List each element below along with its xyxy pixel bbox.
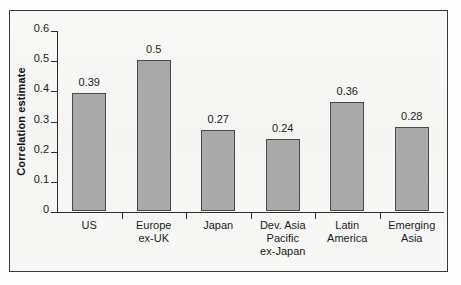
- bar: [72, 93, 106, 211]
- y-tick-label: 0.1: [34, 174, 49, 185]
- y-tick-mark: [51, 122, 57, 123]
- y-tick-mark: [51, 61, 57, 62]
- y-tick-mark: [51, 152, 57, 153]
- bar: [330, 102, 364, 211]
- x-category-label: Europe ex-UK: [122, 219, 187, 245]
- bar: [137, 60, 171, 211]
- bar: [266, 139, 300, 211]
- y-axis-title: Correlation estimate: [14, 31, 28, 212]
- y-axis-line: [57, 31, 58, 213]
- bar: [201, 130, 235, 211]
- y-tick-mark: [51, 91, 57, 92]
- x-category-label: Dev. Asia Pacific ex-Japan: [251, 219, 316, 258]
- y-tick-label: 0.6: [34, 23, 49, 34]
- y-tick-label: 0.4: [34, 83, 49, 94]
- bar-value-label: 0.5: [124, 44, 184, 55]
- bar-value-label: 0.28: [382, 111, 442, 122]
- y-tick-mark: [51, 212, 57, 213]
- bar-value-label: 0.39: [59, 77, 119, 88]
- bar-value-label: 0.24: [253, 123, 313, 134]
- y-tick-mark: [51, 31, 57, 32]
- y-tick-label: 0: [43, 204, 49, 215]
- bar: [395, 127, 429, 211]
- bar-value-label: 0.36: [317, 86, 377, 97]
- x-category-label: Latin America: [315, 219, 380, 245]
- x-category-label: Japan: [186, 219, 251, 232]
- y-tick-mark: [51, 182, 57, 183]
- y-tick-label: 0.5: [34, 53, 49, 64]
- x-category-label: US: [57, 219, 122, 232]
- plot-area: 00.10.20.30.40.50.6 0.390.50.270.240.360…: [57, 31, 444, 212]
- x-category-label: Emerging Asia: [380, 219, 445, 245]
- bar-value-label: 0.27: [188, 114, 248, 125]
- y-tick-label: 0.2: [34, 144, 49, 155]
- y-tick-label: 0.3: [34, 114, 49, 125]
- figure-canvas: Correlation estimate 00.10.20.30.40.50.6…: [0, 0, 461, 285]
